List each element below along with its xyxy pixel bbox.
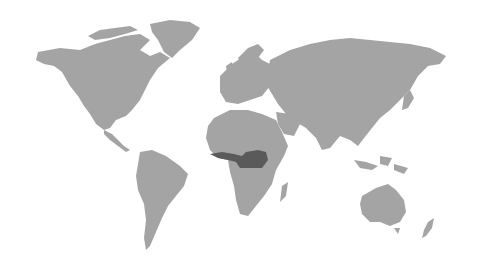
world-map-svg bbox=[0, 0, 481, 275]
australia bbox=[360, 184, 406, 226]
madagascar bbox=[280, 182, 288, 202]
greenland bbox=[150, 20, 200, 58]
world-map bbox=[0, 0, 481, 275]
new-zealand bbox=[422, 218, 434, 238]
tasmania bbox=[394, 228, 400, 234]
indonesia bbox=[354, 156, 408, 174]
south-america bbox=[136, 150, 188, 250]
central-america bbox=[104, 130, 130, 152]
north-america bbox=[36, 34, 170, 130]
